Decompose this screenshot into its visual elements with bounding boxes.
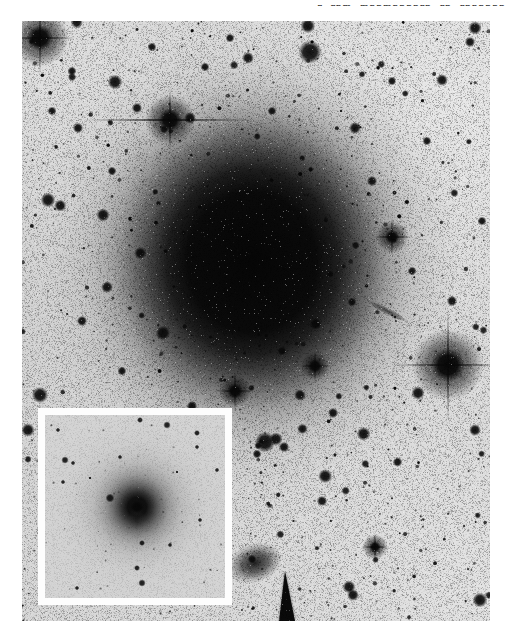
photo-plate: [22, 21, 490, 621]
running-head-cropped: r rnm mnnmnnnnrn rn rnnnnnn: [286, 0, 506, 6]
running-head-text: r rnm mnnmnnnnrn rn rnnnnnn: [317, 2, 506, 6]
inset-galaxy-canvas: [45, 415, 225, 598]
inset-panel: [38, 408, 232, 605]
